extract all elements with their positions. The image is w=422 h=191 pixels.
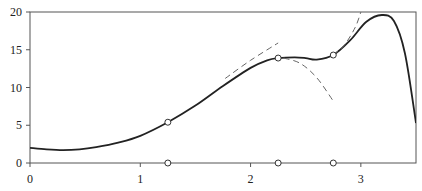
data-point-marker xyxy=(165,160,171,166)
x-tick-label: 2 xyxy=(248,172,254,186)
y-tick-label: 10 xyxy=(10,81,22,95)
x-tick-label: 0 xyxy=(27,172,33,186)
x-tick-label: 3 xyxy=(358,172,364,186)
data-point-marker xyxy=(275,160,281,166)
axes: 012305101520 xyxy=(10,5,416,186)
function-curve xyxy=(30,15,416,150)
y-tick-label: 0 xyxy=(16,156,22,170)
data-point-marker xyxy=(275,55,281,61)
data-point-marker xyxy=(330,52,336,58)
dashed-approximation-line xyxy=(225,43,278,78)
x-tick-label: 1 xyxy=(137,172,143,186)
plot-area xyxy=(30,12,416,166)
chart: 012305101520 xyxy=(0,0,422,191)
plot-frame xyxy=(30,12,416,163)
data-point-marker xyxy=(165,119,171,125)
y-tick-label: 5 xyxy=(16,118,22,132)
dashed-approximation-line xyxy=(284,58,334,101)
y-tick-label: 15 xyxy=(10,43,22,57)
data-point-marker xyxy=(330,160,336,166)
y-tick-label: 20 xyxy=(10,5,22,19)
